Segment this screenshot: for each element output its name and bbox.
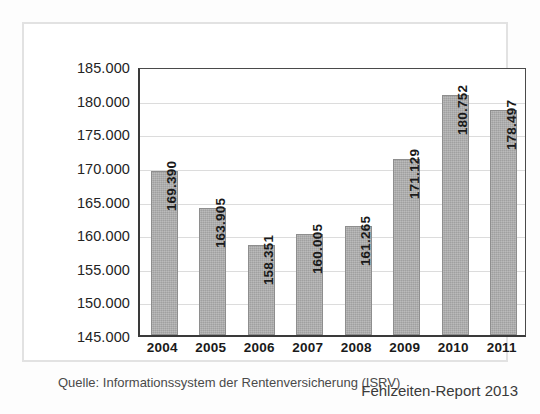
bar: 158.351 [248,245,275,335]
bar: 161.265 [345,226,372,335]
source-note: Quelle: Informationssystem der Rentenver… [58,375,400,390]
x-axis-tick: 2011 [478,340,527,355]
y-axis-tick: 175.000 [30,128,130,143]
figure-frame: 185.000180.000175.000170.000165.000160.0… [22,22,508,362]
bar-value-label: 169.390 [164,161,179,211]
bar-series: 169.390163.905158.351160.005161.265171.1… [140,69,525,335]
bar-value-label: 161.265 [358,216,373,266]
x-axis-tick: 2008 [332,340,381,355]
x-axis-tick: 2010 [429,340,478,355]
y-axis-tick: 155.000 [30,263,130,278]
y-axis-tick: 170.000 [30,162,130,177]
bar-value-label: 158.351 [261,235,276,285]
y-axis-tick: 160.000 [30,229,130,244]
y-axis-tick: 185.000 [30,61,130,76]
bar-value-label: 163.905 [213,198,228,248]
y-axis-tick-labels: 185.000180.000175.000170.000165.000160.0… [24,68,130,337]
y-axis-tick: 165.000 [30,196,130,211]
bar: 178.497 [490,110,517,335]
chart-plot-area: 169.390163.905158.351160.005161.265171.1… [138,68,526,337]
bar: 160.005 [296,234,323,335]
bar-value-label: 171.129 [407,149,422,199]
bar: 180.752 [442,95,469,335]
bar: 171.129 [393,159,420,335]
x-axis-tick: 2004 [138,340,187,355]
y-axis-tick: 180.000 [30,95,130,110]
bar: 169.390 [151,171,178,335]
bar-value-label: 178.497 [504,100,519,150]
x-axis-tick-labels: 20042005200620072008200920102011 [138,340,526,362]
x-axis-tick: 2005 [187,340,236,355]
x-axis-tick: 2006 [235,340,284,355]
y-axis-tick: 145.000 [30,330,130,345]
x-axis-tick: 2007 [284,340,333,355]
x-axis-tick: 2009 [381,340,430,355]
bar-value-label: 180.752 [455,84,470,134]
y-axis-tick: 150.000 [30,296,130,311]
report-footer: Fehlzeiten-Report 2013 [361,382,518,399]
bar: 163.905 [199,208,226,335]
bar-value-label: 160.005 [310,224,325,274]
